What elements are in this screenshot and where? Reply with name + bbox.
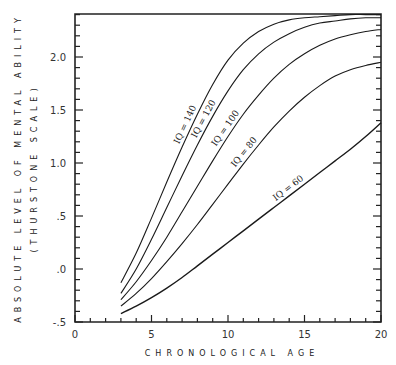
labels: IQ = 140IQ = 120IQ = 100IQ = 80IQ = 60: [172, 98, 306, 203]
y-tick-label: 1.5: [50, 105, 66, 116]
x-tick-label: 5: [148, 329, 154, 340]
y-tick-label: .0: [56, 264, 66, 275]
curve-iq-60: [121, 123, 381, 314]
y-axis-title: ABSOLUTE LEVEL OF MENTAL ABILITY: [14, 13, 23, 323]
x-tick-label: 20: [375, 329, 388, 340]
curve-iq-80: [121, 62, 381, 306]
x-axis-title: CHRONOLOGICAL AGE: [145, 349, 319, 358]
y-tick-label: 1.0: [50, 158, 66, 169]
axis-ticks: 05101520-.5.0.51.01.52.0: [50, 15, 387, 340]
x-tick-label: 10: [222, 329, 235, 340]
y-axis-subtitle: (THURSTONE SCALE): [30, 83, 39, 252]
curve-iq-100: [121, 29, 381, 299]
x-tick-label: 15: [298, 329, 311, 340]
y-tick-label: .5: [56, 211, 66, 222]
y-tick-label: 2.0: [50, 52, 66, 63]
chart: 05101520-.5.0.51.01.52.0 IQ = 140IQ = 12…: [0, 0, 396, 365]
curves: [121, 15, 381, 314]
x-tick-label: 0: [72, 329, 78, 340]
y-tick-label: -.5: [53, 317, 66, 328]
